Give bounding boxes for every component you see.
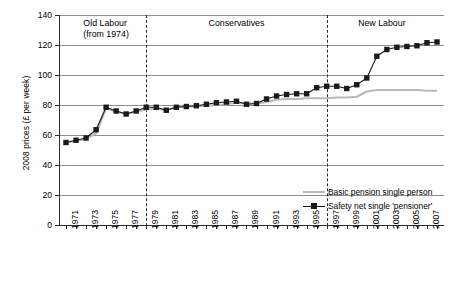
series-line — [66, 90, 437, 143]
data-point-marker — [414, 43, 419, 48]
data-point-marker — [83, 135, 88, 140]
x-tick-label: 1983 — [190, 210, 200, 229]
data-point-marker — [314, 85, 319, 90]
data-point-marker — [404, 44, 409, 49]
data-point-marker — [374, 54, 379, 59]
data-point-marker — [254, 101, 259, 106]
x-tick-label: 1975 — [110, 210, 120, 229]
x-tick-label: 1989 — [250, 210, 260, 229]
data-point-marker — [184, 104, 189, 109]
data-point-marker — [294, 91, 299, 96]
era-label: Conservatives — [209, 18, 265, 29]
data-point-marker — [244, 102, 249, 107]
data-point-marker — [133, 108, 138, 113]
data-point-marker — [334, 84, 339, 89]
data-point-marker — [63, 140, 68, 145]
legend-item-basic-pension: Basic pension single person — [303, 185, 432, 199]
data-point-marker — [154, 105, 159, 110]
data-point-marker — [174, 105, 179, 110]
data-point-marker — [434, 39, 439, 44]
data-point-marker — [73, 138, 78, 143]
legend-swatch-line-icon — [303, 186, 325, 198]
x-tick-label: 1985 — [210, 210, 220, 229]
era-label: New Labour — [358, 18, 405, 29]
legend-item-safety-net: Safety net single 'pensioner' — [303, 199, 432, 213]
y-tick-label: 60 — [18, 130, 52, 140]
data-point-marker — [234, 99, 239, 104]
data-point-marker — [214, 100, 219, 105]
data-point-marker — [324, 84, 329, 89]
data-point-marker — [264, 96, 269, 101]
data-point-marker — [224, 99, 229, 104]
data-point-marker — [103, 105, 108, 110]
data-point-marker — [93, 127, 98, 132]
chart-legend: Basic pension single person Safety net s… — [303, 185, 432, 213]
data-point-marker — [424, 40, 429, 45]
y-tick-label: 40 — [18, 160, 52, 170]
x-tick-label: 1991 — [271, 210, 281, 229]
y-tick-label: 20 — [18, 190, 52, 200]
data-point-marker — [123, 111, 128, 116]
data-point-marker — [164, 108, 169, 113]
legend-label: Safety net single 'pensioner' — [328, 199, 432, 213]
data-point-marker — [284, 92, 289, 97]
data-point-marker — [194, 103, 199, 108]
x-tick-label: 1971 — [70, 210, 80, 229]
x-tick-label: 1979 — [150, 210, 160, 229]
data-point-marker — [144, 105, 149, 110]
y-tick-label: 100 — [18, 70, 52, 80]
data-point-marker — [113, 108, 118, 113]
series-line — [66, 42, 437, 143]
data-point-marker — [354, 82, 359, 87]
data-point-marker — [394, 45, 399, 50]
data-point-marker — [384, 47, 389, 52]
x-tick-label: 1987 — [230, 210, 240, 229]
x-tick-label: 1993 — [291, 210, 301, 229]
y-tick-label: 120 — [18, 40, 52, 50]
chart-container: 2008 prices (£ per week) 020406080100120… — [0, 0, 453, 286]
data-point-marker — [344, 86, 349, 91]
y-tick-label: 0 — [18, 220, 52, 230]
y-tick-label: 80 — [18, 100, 52, 110]
era-label: Old Labour(from 1974) — [83, 18, 128, 40]
data-point-marker — [274, 93, 279, 98]
x-tick-label: 2007 — [431, 210, 441, 229]
y-tick-label: 140 — [18, 10, 52, 20]
x-tick-label: 1973 — [90, 210, 100, 229]
legend-swatch-line-marker-icon — [303, 200, 325, 212]
data-point-marker — [364, 75, 369, 80]
data-point-marker — [304, 91, 309, 96]
x-tick-label: 1977 — [130, 210, 140, 229]
legend-label: Basic pension single person — [328, 185, 432, 199]
x-tick-label: 1981 — [170, 210, 180, 229]
data-point-marker — [204, 102, 209, 107]
